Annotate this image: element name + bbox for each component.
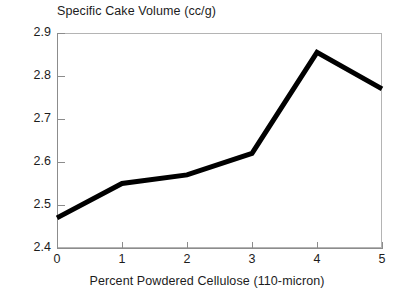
- y-tick-mark: [58, 76, 65, 77]
- x-tick-mark: [122, 242, 123, 249]
- x-tick-mark: [317, 242, 318, 249]
- y-tick-mark: [58, 248, 65, 249]
- x-tick-label: 4: [307, 252, 327, 266]
- chart-figure: Specific Cake Volume (cc/g) 2.42.52.62.7…: [0, 0, 414, 301]
- x-tick-mark: [57, 242, 58, 249]
- x-axis-line: [57, 248, 383, 249]
- x-tick-label: 0: [47, 252, 67, 266]
- x-tick-mark: [187, 242, 188, 249]
- y-axis-line: [57, 33, 58, 249]
- y-tick-label: 2.9: [17, 25, 51, 39]
- x-tick-mark: [382, 242, 383, 249]
- x-axis-title: Percent Powdered Cellulose (110-micron): [0, 274, 414, 288]
- plot-area: [57, 33, 382, 248]
- y-tick-label: 2.5: [17, 197, 51, 211]
- y-tick-label: 2.6: [17, 154, 51, 168]
- x-tick-label: 3: [242, 252, 262, 266]
- x-tick-label: 5: [372, 252, 392, 266]
- y-tick-mark: [58, 162, 65, 163]
- y-tick-label: 2.7: [17, 111, 51, 125]
- chart-title: Specific Cake Volume (cc/g): [57, 4, 216, 18]
- y-tick-label: 2.8: [17, 68, 51, 82]
- x-tick-label: 1: [112, 252, 132, 266]
- y-tick-mark: [58, 119, 65, 120]
- y-tick-mark: [58, 33, 65, 34]
- y-tick-mark: [58, 205, 65, 206]
- x-tick-label: 2: [177, 252, 197, 266]
- x-tick-mark: [252, 242, 253, 249]
- y-tick-label: 2.4: [17, 240, 51, 254]
